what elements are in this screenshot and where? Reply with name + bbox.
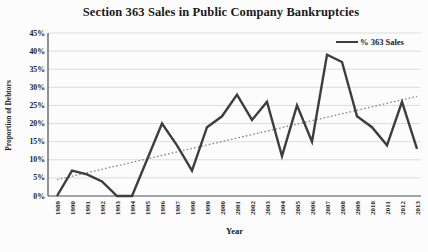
y-tick-label: 0% [33,192,45,201]
legend: % 363 Sales [336,37,404,47]
y-tick-label: 20% [29,119,45,128]
x-tick-label: 2009 [354,201,362,216]
x-tick-label: 2005 [294,201,302,216]
y-tick-label: 35% [29,65,45,74]
x-axis-title: Year [48,226,421,236]
chart-figure: Section 363 Sales in Public Company Bank… [0,0,428,252]
x-tick-label: 2003 [264,201,272,216]
x-tick-label: 1992 [99,201,107,216]
x-tick-label: 2007 [324,201,332,216]
legend-line-sample-icon [336,41,358,43]
x-tick-label: 1993 [114,201,122,216]
x-tick-label: 1991 [84,201,92,216]
x-tick-label: 1995 [144,201,152,216]
x-tick-label: 2012 [399,201,407,216]
y-tick-label: 45% [29,29,45,38]
x-tick-label: 1997 [174,201,182,216]
trend-line [57,96,417,179]
x-tick-label: 2001 [234,201,242,216]
x-tick-label: 2011 [384,201,392,215]
x-tick-label: 1989 [54,201,62,216]
y-tick-label: 10% [29,155,45,164]
x-tick-label: 2006 [309,201,317,216]
x-tick-label: 1996 [159,201,167,216]
y-tick-label: 30% [29,83,45,92]
x-tick-label: 1990 [69,201,77,216]
y-tick-label: 5% [33,173,45,182]
x-tick-label: 1999 [204,201,212,216]
x-tick-label: 1998 [189,201,197,216]
y-tick-label: 15% [29,137,45,146]
x-tick-label: 1994 [129,201,137,216]
x-tick-label: 2000 [219,201,227,216]
series-line [57,55,417,196]
x-tick-label: 2008 [339,201,347,216]
x-tick-label: 2004 [279,201,287,216]
y-tick-label: 25% [29,101,45,110]
x-tick-label: 2002 [249,200,257,215]
x-tick-label: 2010 [369,201,377,216]
x-tick-label: 2013 [414,201,422,216]
legend-label: % 363 Sales [360,37,404,47]
y-tick-label: 40% [29,47,45,56]
